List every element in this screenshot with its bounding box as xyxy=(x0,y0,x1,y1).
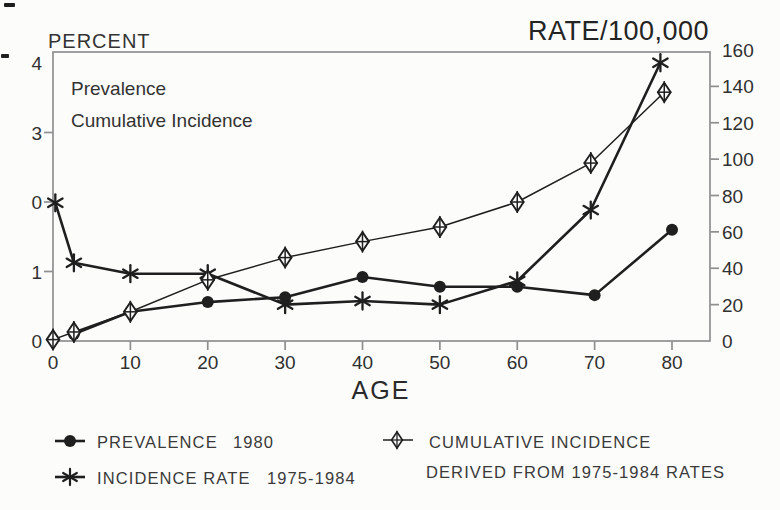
filled-circle-marker xyxy=(202,296,214,308)
right-axis-tick-label: 40 xyxy=(722,259,772,278)
diamond-cross-marker xyxy=(123,301,137,323)
inner-label-cumulative-incidence: Cumulative Incidence xyxy=(71,110,253,132)
epidemiology-chart-figure: PERCENT RATE/100,000 AGE Prevalence Cumu… xyxy=(0,0,780,510)
filled-circle-marker xyxy=(357,271,369,283)
legend-period-incidence-rate: 1975-1984 xyxy=(267,469,356,488)
x-axis-tick-label: 20 xyxy=(186,353,230,372)
diamond-cross-marker xyxy=(433,216,447,238)
right-axis-tick-label: 60 xyxy=(722,223,772,242)
filled-circle-marker xyxy=(64,435,76,447)
left-axis-tick-label: 0 xyxy=(8,332,42,351)
right-axis-title: RATE/100,000 xyxy=(528,16,709,47)
x-axis-tick-label: 50 xyxy=(418,353,462,372)
left-axis-title: PERCENT xyxy=(48,30,151,53)
x-axis-tick-label: 0 xyxy=(31,353,75,372)
diamond-cross-marker xyxy=(67,321,81,343)
series-line-filled-circle xyxy=(74,230,672,334)
right-axis-tick-label: 0 xyxy=(722,332,772,351)
x-axis-tick-label: 60 xyxy=(495,353,539,372)
right-axis-tick-label: 120 xyxy=(722,114,772,133)
left-axis-tick-label: 1 xyxy=(8,263,42,282)
left-axis-tick-label: 0 xyxy=(8,193,42,212)
diamond-cross-marker xyxy=(657,81,671,103)
left-axis-tick-label: 3 xyxy=(8,124,42,143)
diamond-cross-marker xyxy=(278,247,292,269)
right-axis-tick-label: 160 xyxy=(722,41,772,60)
legend-label-prevalence: PREVALENCE xyxy=(97,433,218,452)
x-axis-tick-label: 70 xyxy=(573,353,617,372)
diamond-cross-marker xyxy=(510,191,524,213)
diamond-cross-marker xyxy=(46,329,60,351)
legend-label-incidence-rate: INCIDENCE RATE xyxy=(97,469,251,488)
filled-circle-marker xyxy=(434,281,446,293)
right-axis-tick-label: 20 xyxy=(722,296,772,315)
legend-period-prevalence: 1980 xyxy=(233,433,274,452)
legend-label-cumulative-incidence-line2: DERIVED FROM 1975-1984 RATES xyxy=(426,463,725,482)
diamond-cross-marker xyxy=(356,231,370,253)
x-axis-title: AGE xyxy=(321,376,441,405)
right-axis-tick-label: 140 xyxy=(722,77,772,96)
filled-circle-marker xyxy=(589,289,601,301)
filled-circle-marker xyxy=(666,224,678,236)
inner-label-prevalence: Prevalence xyxy=(71,78,166,100)
x-axis-tick-label: 80 xyxy=(650,353,694,372)
x-axis-tick-label: 10 xyxy=(108,353,152,372)
right-axis-tick-label: 80 xyxy=(722,187,772,206)
x-axis-tick-label: 30 xyxy=(263,353,307,372)
diamond-cross-marker xyxy=(391,431,403,450)
left-axis-tick-label: 4 xyxy=(8,54,42,73)
legend-label-cumulative-incidence: CUMULATIVE INCIDENCE xyxy=(429,433,651,452)
x-axis-tick-label: 40 xyxy=(341,353,385,372)
diamond-cross-marker xyxy=(584,152,598,174)
right-axis-tick-label: 100 xyxy=(722,150,772,169)
star-marker xyxy=(653,54,667,71)
